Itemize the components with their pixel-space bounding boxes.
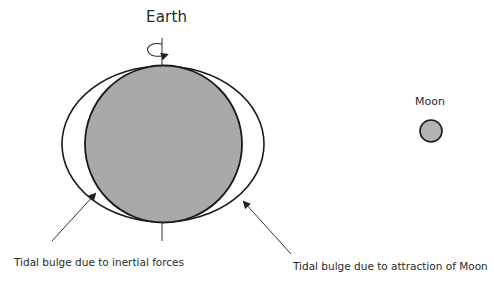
- arrow-moon-bulge: [244, 202, 291, 254]
- tidal-diagram: [0, 0, 494, 283]
- moon-circle: [420, 120, 442, 142]
- rotation-arrow-icon: [148, 44, 166, 57]
- arrow-inertial-bulge: [52, 194, 95, 241]
- earth-circle: [85, 66, 242, 223]
- earth-label: Earth: [146, 8, 187, 26]
- moon-label: Moon: [415, 95, 445, 108]
- inertial-bulge-caption: Tidal bulge due to inertial forces: [14, 256, 184, 268]
- moon-bulge-caption: Tidal bulge due to attraction of Moon: [293, 260, 488, 272]
